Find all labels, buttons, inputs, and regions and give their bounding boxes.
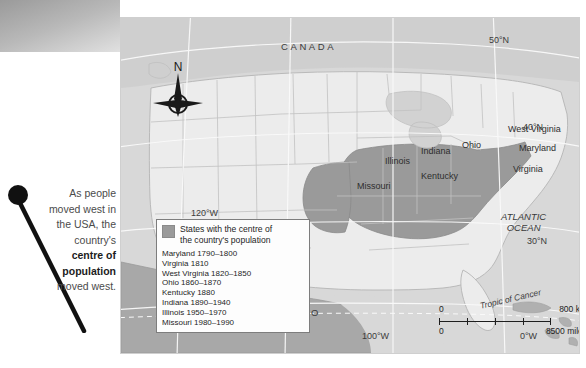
scale-miles-end: 8500 miles [546,326,580,336]
legend-item: Illinois 1950–1970 [162,308,304,318]
scale-miles-row: 0 8500 miles [439,326,551,339]
map-legend: States with the centre of the country's … [156,219,310,333]
legend-title: States with the centre of the country's … [180,224,272,245]
caption-line-3: the USA, the [56,218,116,230]
legend-item: West Virginia 1820–1850 [162,269,304,279]
legend-item: Ohio 1860–1870 [162,278,304,288]
compass-rose-icon: N [151,55,207,119]
caption-line-2: moved west in [49,203,116,215]
legend-title-line-1: States with the centre of [180,224,272,234]
map-figure: N CANADA MEXICO ATLANTIC OCEAN Tropic of… [120,17,580,354]
svg-text:N: N [174,60,183,74]
caption-line-5: moved west. [57,280,116,292]
caption-text: As people moved west in the USA, the cou… [8,186,120,295]
legend-item: Kentucky 1880 [162,288,304,298]
caption-line-4: country's [74,234,116,246]
caption-bold-1: centre of [72,249,116,261]
legend-item: Missouri 1980–1990 [162,318,304,328]
legend-item: Virginia 1810 [162,259,304,269]
scale-miles-start: 0 [439,326,444,336]
caption-line-1: As people [69,187,116,199]
legend-entry-list: Maryland 1790–1800 Virginia 1810 West Vi… [162,249,304,327]
scale-km-end: 800 km [559,304,580,314]
map-scale-bar: 0 800 km 0 8500 miles [439,304,551,339]
legend-title-line-2: the country's population [180,235,271,245]
scale-km-start: 0 [439,304,444,314]
caption-block: As people moved west in the USA, the cou… [8,186,120,295]
scale-bar-line [439,318,551,325]
legend-header: States with the centre of the country's … [162,224,304,245]
legend-item: Indiana 1890–1940 [162,298,304,308]
corner-gradient-decoration [0,0,120,62]
scale-km-row: 0 800 km [439,304,551,317]
caption-bold-2: population [62,265,116,277]
legend-item: Maryland 1790–1800 [162,249,304,259]
legend-color-swatch [162,225,175,238]
